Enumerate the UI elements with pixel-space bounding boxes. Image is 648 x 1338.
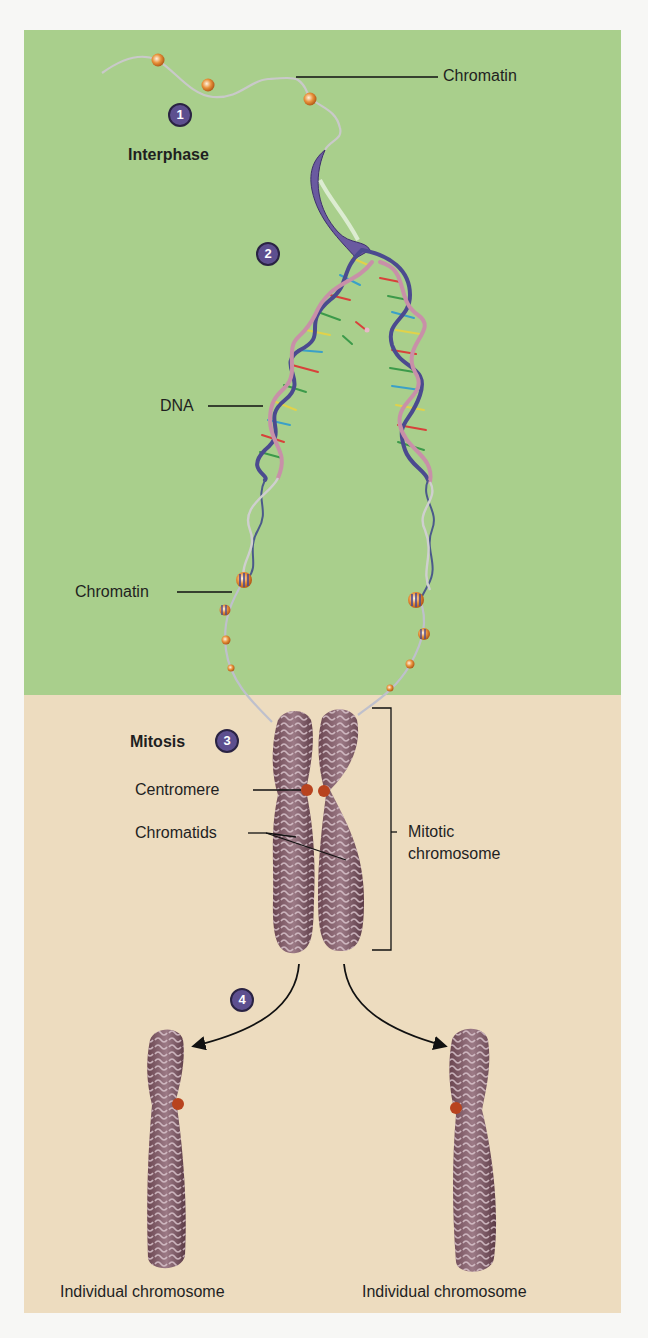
mitosis-title: Mitosis [130, 733, 185, 751]
chromatids-label: Chromatids [135, 824, 217, 842]
mitotic-chromosome-label-line2: chromosome [408, 845, 500, 863]
step-number: 3 [223, 733, 230, 748]
step-2-badge: 2 [256, 242, 280, 266]
interphase-chromatin-strand [102, 54, 340, 151]
dna-helix [257, 250, 430, 482]
interphase-title: Interphase [128, 146, 209, 164]
step-number: 4 [238, 992, 245, 1007]
chromosome-illustration [0, 0, 648, 1338]
chromatin-label-top: Chromatin [443, 67, 517, 85]
step-3-badge: 3 [215, 729, 239, 753]
chromatin-fibers [220, 478, 434, 722]
chromatin-label-mid: Chromatin [75, 583, 149, 601]
individual-chromosome-left [147, 1030, 186, 1269]
step-number: 2 [264, 246, 271, 261]
individual-chromosome-label-left: Individual chromosome [60, 1283, 225, 1301]
step-4-badge: 4 [230, 988, 254, 1012]
centromere-dot [318, 785, 330, 797]
centromere-label: Centromere [135, 781, 219, 799]
dna-label: DNA [160, 397, 194, 415]
step-1-badge: 1 [168, 103, 192, 127]
individual-chromosome-right [449, 1029, 496, 1272]
mitotic-chromosome-label-line1: Mitotic [408, 823, 454, 841]
individual-chromosome-label-right: Individual chromosome [362, 1283, 527, 1301]
centromere-dot [301, 784, 313, 796]
mitotic-chromosome [273, 709, 364, 953]
step-number: 1 [176, 107, 183, 122]
